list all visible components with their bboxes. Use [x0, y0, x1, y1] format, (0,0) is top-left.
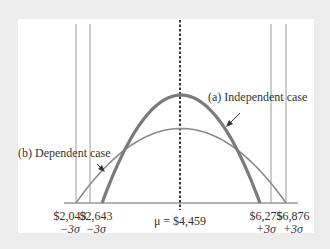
tick-sigma: −3σ	[80, 223, 113, 236]
mean-label: μ = $4,459	[154, 215, 206, 228]
curve-independent	[102, 95, 260, 203]
tick-label-2643: $2,643 −3σ	[80, 210, 113, 236]
label-dependent-case: (b) Dependent case	[18, 147, 111, 160]
tick-sigma: +3σ	[277, 223, 310, 236]
label-independent-case: (a) Independent case	[208, 91, 307, 104]
tick-label-6876: $6,876 +3σ	[277, 210, 310, 236]
